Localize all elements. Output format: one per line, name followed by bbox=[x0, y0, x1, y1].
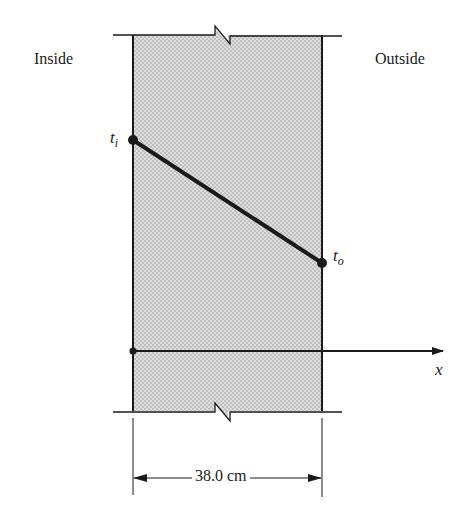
axis-origin-point bbox=[130, 348, 137, 355]
outside-label: Outside bbox=[375, 50, 425, 68]
thickness-dimension bbox=[133, 418, 322, 497]
thickness-label: 38.0 cm bbox=[192, 467, 250, 485]
wall-section bbox=[113, 26, 342, 421]
inner-temperature-label: ti bbox=[110, 128, 118, 151]
wall-diagram bbox=[0, 0, 468, 512]
outer-temperature-label: to bbox=[333, 246, 344, 269]
inner-temperature-subscript: i bbox=[115, 136, 118, 150]
inner-temperature-point bbox=[128, 135, 138, 145]
inside-label: Inside bbox=[34, 50, 73, 68]
wall-fill bbox=[133, 28, 322, 418]
outer-temperature-subscript: o bbox=[338, 254, 344, 268]
outer-temperature-point bbox=[317, 258, 327, 268]
x-axis-label: x bbox=[435, 360, 443, 380]
